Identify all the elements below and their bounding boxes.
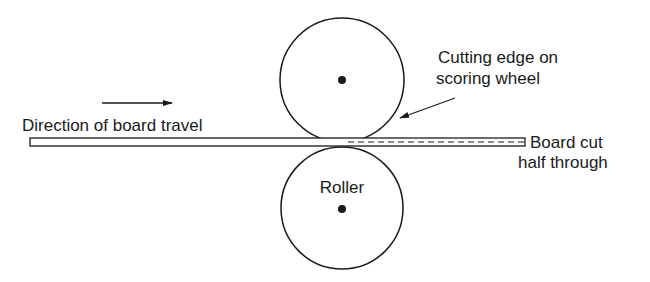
roller-axle: [338, 205, 346, 213]
scoring-diagram: Direction of board travel Roller Cutting…: [0, 0, 650, 282]
scoring-wheel-axle: [338, 76, 346, 84]
cutting-edge-label-line2: scoring wheel: [436, 69, 540, 88]
pointer-arrow-icon: [400, 98, 455, 118]
board-cut-label-line2: half through: [518, 153, 608, 172]
direction-label: Direction of board travel: [22, 116, 202, 135]
board-cut-label-line1: Board cut: [530, 133, 603, 152]
roller-label: Roller: [320, 178, 365, 197]
cutting-edge-label-line1: Cutting edge on: [438, 48, 558, 67]
